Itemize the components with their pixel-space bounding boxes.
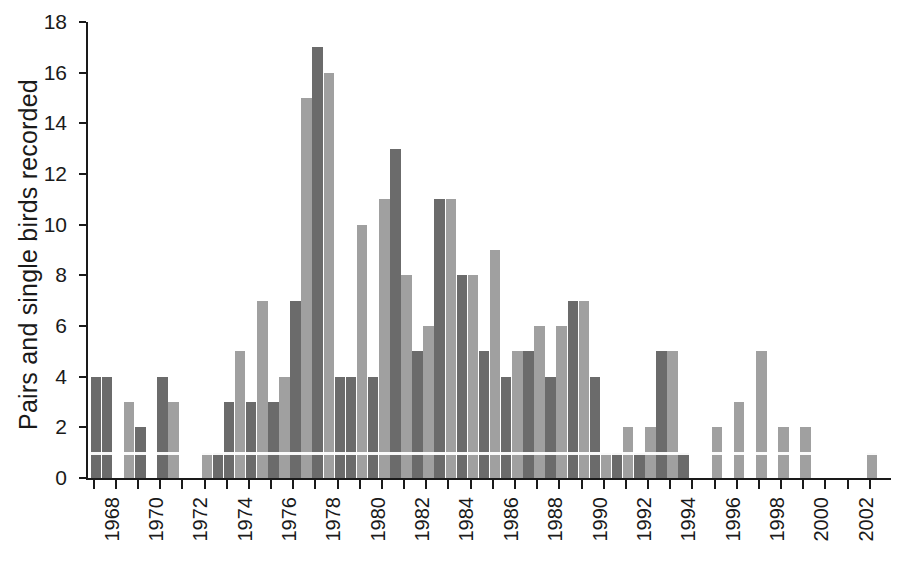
x-tick-label-1994: 1994 [677, 497, 700, 542]
plot-area: 024681012141618 196819701972197419761978… [86, 22, 891, 478]
bar [279, 377, 290, 478]
x-tick-label-1998: 1998 [766, 497, 789, 542]
bar [534, 326, 545, 478]
bar [324, 73, 335, 478]
x-tick-label-1984: 1984 [455, 497, 478, 542]
y-tick-label-0: 0 [55, 466, 67, 490]
y-tick-6 [79, 325, 86, 327]
bar [468, 275, 479, 478]
y-tick-label-6: 6 [55, 314, 67, 338]
x-tick-1992 [625, 480, 627, 489]
x-tick-label-1988: 1988 [544, 497, 567, 542]
x-tick-label-1976: 1976 [278, 497, 301, 542]
y-tick-2 [79, 426, 86, 428]
x-tick-label-1982: 1982 [411, 497, 434, 542]
x-tick-1975 [248, 480, 250, 489]
bar [235, 351, 246, 478]
x-tick-label-1986: 1986 [500, 497, 523, 542]
bar [124, 402, 135, 478]
x-tick-1990 [581, 480, 583, 489]
y-tick-12 [79, 173, 86, 175]
bar [556, 326, 567, 478]
bar [224, 402, 235, 478]
y-tick-0 [79, 477, 86, 479]
x-tick-1981 [381, 480, 383, 489]
bar [479, 351, 490, 478]
bar [91, 377, 102, 478]
x-tick-1993 [647, 480, 649, 489]
bar [667, 351, 678, 478]
x-tick-1998 [758, 480, 760, 489]
y-axis-title: Pairs and single birds recorded [14, 15, 43, 495]
x-tick-label-1972: 1972 [189, 497, 212, 542]
bar [246, 402, 257, 478]
bar [346, 377, 357, 478]
bar [412, 351, 423, 478]
x-tick-label-1978: 1978 [322, 497, 345, 542]
x-tick-1979 [337, 480, 339, 489]
x-tick-label-1992: 1992 [633, 497, 656, 542]
bar [590, 377, 601, 478]
x-tick-label-1990: 1990 [589, 497, 612, 542]
bar [512, 351, 523, 478]
y-tick-label-18: 18 [44, 10, 67, 34]
x-tick-1991 [603, 480, 605, 489]
y-tick-16 [79, 72, 86, 74]
bar [423, 326, 434, 478]
x-tick-2002 [847, 480, 849, 489]
x-tick-1968 [93, 480, 95, 489]
x-tick-1987 [514, 480, 516, 489]
bar [434, 199, 445, 478]
x-tick-1995 [691, 480, 693, 489]
x-tick-1971 [159, 480, 161, 489]
y-tick-14 [79, 122, 86, 124]
x-tick-1984 [447, 480, 449, 489]
bar [368, 377, 379, 478]
x-tick-1982 [403, 480, 405, 489]
bar [379, 199, 390, 478]
bar [401, 275, 412, 478]
bar [312, 47, 323, 478]
y-tick-label-2: 2 [55, 415, 67, 439]
x-tick-1986 [492, 480, 494, 489]
bar [501, 377, 512, 478]
x-tick-2000 [802, 480, 804, 489]
y-tick-label-16: 16 [44, 61, 67, 85]
y-tick-10 [79, 224, 86, 226]
x-tick-1988 [536, 480, 538, 489]
bar [202, 453, 213, 478]
bar [157, 377, 168, 478]
x-tick-1989 [558, 480, 560, 489]
y-tick-8 [79, 274, 86, 276]
x-tick-1983 [425, 480, 427, 489]
chart-figure: Pairs and single birds recorded 02468101… [0, 0, 905, 568]
bar [457, 275, 468, 478]
bar [102, 377, 113, 478]
bar [867, 453, 878, 478]
x-tick-1985 [470, 480, 472, 489]
x-tick-label-1974: 1974 [234, 497, 257, 542]
x-tick-1969 [115, 480, 117, 489]
bar [357, 225, 368, 478]
x-tick-1980 [359, 480, 361, 489]
bar [268, 402, 279, 478]
x-tick-1976 [270, 480, 272, 489]
x-tick-1999 [780, 480, 782, 489]
x-tick-1977 [292, 480, 294, 489]
x-tick-1970 [137, 480, 139, 489]
y-tick-label-4: 4 [55, 365, 67, 389]
bar [168, 402, 179, 478]
bar [446, 199, 457, 478]
y-tick-label-8: 8 [55, 263, 67, 287]
x-tick-label-1970: 1970 [145, 497, 168, 542]
bar [213, 453, 224, 478]
x-tick-1994 [669, 480, 671, 489]
y-tick-4 [79, 376, 86, 378]
x-tick-label-2000: 2000 [810, 497, 833, 542]
x-tick-1972 [181, 480, 183, 489]
bar [656, 351, 667, 478]
bar [490, 250, 501, 478]
x-tick-1996 [714, 480, 716, 489]
baseline-gridline [88, 452, 891, 455]
x-tick-label-1996: 1996 [722, 497, 745, 542]
